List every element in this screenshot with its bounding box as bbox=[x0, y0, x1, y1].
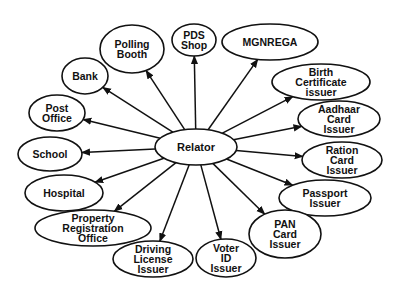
node-pds-shop: PDSShop bbox=[172, 24, 216, 56]
center-node: Relator bbox=[155, 129, 237, 165]
hospital-label-line: Hospital bbox=[43, 187, 85, 199]
passport-issuer-label-line: Issuer bbox=[310, 197, 341, 209]
node-property-registration-office: PropertyRegistrationOffice bbox=[35, 210, 151, 246]
voter-id-issuer-label-line: Issuer bbox=[211, 262, 242, 274]
edge-relator-to-aadhaar-card-issuer bbox=[233, 126, 301, 139]
node-birth-certificate-issuer: BirthCertificateissuer bbox=[272, 64, 370, 100]
edge-relator-to-ration-card-issuer bbox=[236, 151, 303, 157]
bank-label-line: Bank bbox=[72, 70, 98, 82]
edge-relator-to-driving-license-issuer bbox=[160, 165, 189, 242]
relator-label: Relator bbox=[177, 141, 216, 153]
node-driving-license-issuer: DrivingLicenseIssuer bbox=[113, 241, 193, 277]
edge-relator-to-voter-id-issuer bbox=[201, 165, 221, 239]
school-label-line: School bbox=[32, 148, 67, 160]
property-registration-office-label-line: Office bbox=[78, 232, 108, 244]
edge-relator-to-passport-issuer bbox=[227, 159, 293, 185]
node-pan-card-issuer: PANCardIssuer bbox=[249, 210, 321, 258]
mgnrega-label-line: MGNREGA bbox=[243, 36, 298, 48]
node-bank: Bank bbox=[62, 58, 108, 94]
driving-license-issuer-label-line: Issuer bbox=[138, 263, 169, 275]
polling-booth-label-line: Booth bbox=[117, 48, 147, 60]
edge-relator-to-polling-booth bbox=[146, 71, 185, 130]
node-hospital: Hospital bbox=[25, 175, 103, 211]
edge-relator-to-post-office bbox=[83, 119, 160, 138]
diagram-canvas: PDSShopMGNREGABirthCertificateissuerAadh… bbox=[0, 0, 399, 292]
edge-relator-to-property-registration-office bbox=[114, 163, 176, 212]
aadhaar-card-issuer-label-line: Issuer bbox=[324, 123, 355, 135]
birth-certificate-issuer-label-line: issuer bbox=[306, 86, 337, 98]
node-school: School bbox=[18, 137, 82, 171]
node-ration-card-issuer: RationCardIssuer bbox=[302, 142, 382, 178]
node-voter-id-issuer: VoterIDIssuer bbox=[196, 239, 256, 277]
node-polling-booth: PollingBooth bbox=[100, 25, 164, 73]
pds-shop-label-line: Shop bbox=[181, 39, 207, 51]
node-aadhaar-card-issuer: AadhaarCardIssuer bbox=[298, 101, 380, 137]
edge-relator-to-birth-certificate-issuer bbox=[222, 97, 292, 134]
node-post-office: PostOffice bbox=[29, 95, 85, 131]
relator-diagram: PDSShopMGNREGABirthCertificateissuerAadh… bbox=[0, 0, 399, 292]
edge-relator-to-school bbox=[82, 149, 155, 153]
node-mgnrega: MGNREGA bbox=[222, 24, 318, 60]
edge-relator-to-pds-shop bbox=[194, 56, 195, 129]
ration-card-issuer-label-line: Issuer bbox=[327, 164, 358, 176]
pan-card-issuer-label-line: Issuer bbox=[270, 238, 301, 250]
edge-relator-to-hospital bbox=[95, 158, 164, 182]
post-office-label-line: Office bbox=[42, 112, 72, 124]
